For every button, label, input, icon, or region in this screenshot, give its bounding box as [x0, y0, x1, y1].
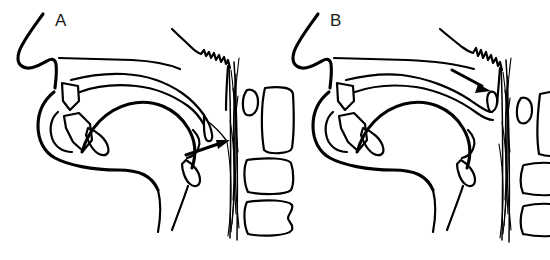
- figure-root: A: [0, 0, 550, 260]
- anatomy-figure-svg: A: [0, 0, 550, 260]
- panel-b-label: B: [330, 11, 341, 30]
- panel-a-label: A: [55, 11, 67, 30]
